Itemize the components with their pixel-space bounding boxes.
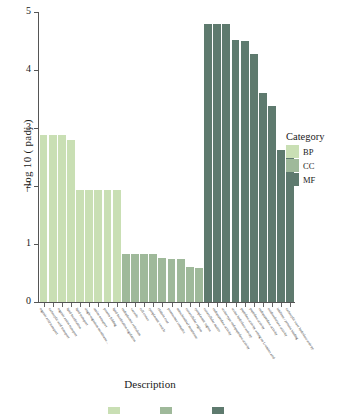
bar: [85, 190, 93, 302]
x-axis-title: Description: [0, 378, 300, 390]
legend: Category BPCCMF: [286, 131, 343, 187]
bar: [122, 254, 130, 302]
bar: [40, 135, 48, 302]
legend-swatch: [286, 173, 299, 186]
plot-area: 012345: [38, 12, 295, 302]
x-axis-line: [38, 302, 295, 303]
bar: [277, 150, 285, 302]
bottom-strip-swatch: [108, 407, 120, 414]
y-axis-tick-label: 4: [26, 63, 31, 74]
bottom-strip-swatch: [212, 407, 224, 414]
go-enrichment-bar-chart: −log 10 ( padj ) 012345 organic acid tra…: [0, 0, 343, 415]
bar: [49, 135, 57, 302]
legend-item[interactable]: MF: [286, 173, 343, 186]
x-axis-tick-labels: organic acid transportcarboxylic acid tr…: [38, 307, 295, 369]
bar: [186, 267, 194, 302]
y-axis-tick-label: 0: [26, 295, 31, 306]
bar: [204, 24, 212, 302]
bar: [113, 190, 121, 302]
bar: [195, 268, 203, 302]
bar: [158, 258, 166, 302]
bar: [149, 254, 157, 302]
y-axis-tick: 3: [34, 128, 38, 129]
y-axis-tick-label: 1: [26, 237, 31, 248]
bar: [222, 24, 230, 302]
y-axis-tick: 1: [34, 244, 38, 245]
y-axis-tick: 2: [34, 186, 38, 187]
legend-item[interactable]: BP: [286, 145, 343, 158]
legend-label: MF: [303, 175, 315, 185]
bar: [140, 254, 148, 302]
legend-swatch: [286, 159, 299, 172]
legend-swatch: [286, 145, 299, 158]
bar: [131, 254, 139, 302]
bar: [241, 41, 249, 302]
bar: [58, 135, 66, 302]
bar: [232, 40, 240, 302]
legend-label: CC: [303, 161, 314, 171]
legend-title: Category: [286, 131, 343, 142]
bar: [168, 259, 176, 303]
y-axis-title: −log 10 ( padj ): [21, 96, 33, 216]
bar: [104, 190, 112, 302]
bar: [94, 190, 102, 302]
y-axis-tick: 0: [34, 302, 38, 303]
bar: [76, 190, 84, 302]
bottom-partial-legend-strip: [0, 405, 343, 415]
bar: [268, 106, 276, 302]
bar: [177, 259, 185, 303]
y-axis-tick: 5: [34, 12, 38, 13]
legend-items: BPCCMF: [286, 145, 343, 186]
bar: [213, 24, 221, 302]
y-axis-tick-label: 3: [26, 121, 31, 132]
y-axis-tick-label: 5: [26, 5, 31, 16]
bar-series: [39, 12, 295, 302]
y-axis-tick: 4: [34, 70, 38, 71]
bar: [250, 54, 258, 302]
y-axis-tick-label: 2: [26, 179, 31, 190]
legend-item[interactable]: CC: [286, 159, 343, 172]
legend-label: BP: [303, 147, 313, 157]
bar: [259, 93, 267, 302]
bar: [67, 140, 75, 302]
bottom-strip-swatch: [160, 407, 172, 414]
